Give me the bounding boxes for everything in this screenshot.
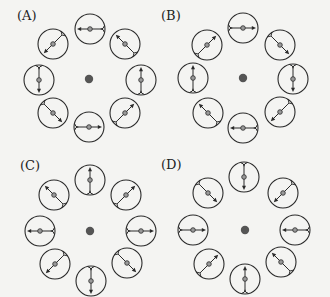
cell-a-2 <box>126 65 156 95</box>
cell-d-4 <box>230 264 260 294</box>
panel-d <box>178 162 310 294</box>
fork-icon <box>287 99 292 104</box>
fork-icon <box>289 64 296 68</box>
cell-c-0 <box>75 165 105 195</box>
cell-center-marker <box>139 229 144 234</box>
cell-center-marker <box>206 191 211 196</box>
fork-icon <box>87 266 94 270</box>
cell-d-6 <box>178 215 208 245</box>
cell-center-marker <box>89 279 94 284</box>
cell-center-marker <box>191 228 196 233</box>
arrowhead-icon <box>230 126 234 130</box>
panel-b <box>178 13 308 143</box>
arrowhead-icon <box>98 125 102 129</box>
fork-icon <box>240 162 247 166</box>
cell-b-7 <box>192 30 222 60</box>
fork-icon <box>194 52 199 57</box>
fork-icon <box>74 123 78 130</box>
cell-d-7 <box>193 178 223 208</box>
arrowhead-icon <box>243 266 247 270</box>
fork-icon <box>112 120 117 125</box>
arrowhead-icon <box>27 229 31 233</box>
cell-center-marker <box>279 260 284 265</box>
cell-center-marker <box>207 262 212 267</box>
fork-icon <box>35 65 42 69</box>
cell-c-6 <box>25 216 55 246</box>
fork-icon <box>290 180 295 185</box>
fork-icon <box>114 250 119 255</box>
cell-center-marker <box>123 111 128 116</box>
cell-d-0 <box>229 162 259 192</box>
cell-d-2 <box>280 215 310 245</box>
center-dot <box>85 75 93 83</box>
cell-b-3 <box>265 97 295 127</box>
arrowhead-icon <box>191 65 195 69</box>
fork-icon <box>178 226 182 233</box>
arrowhead-icon <box>139 67 143 71</box>
cell-c-5 <box>40 249 70 279</box>
cell-center-marker <box>242 175 247 180</box>
cell-center-marker <box>206 111 211 116</box>
cell-b-2 <box>278 64 308 94</box>
arrowhead-icon <box>252 26 256 30</box>
fork-icon <box>306 226 310 233</box>
panel-a <box>24 14 156 142</box>
cell-center-marker <box>293 228 298 233</box>
cell-center-marker <box>291 77 296 82</box>
fork-icon <box>60 31 65 36</box>
cell-center-marker <box>278 110 283 115</box>
fork-icon <box>137 91 144 95</box>
cell-c-7 <box>39 180 69 210</box>
cell-d-5 <box>194 249 224 279</box>
cell-center-marker <box>191 76 196 81</box>
cell-center-marker <box>241 126 246 131</box>
cell-c-4 <box>76 266 106 296</box>
arrowhead-icon <box>77 27 81 31</box>
cell-a-5 <box>38 98 68 128</box>
cell-b-5 <box>193 98 223 128</box>
fork-icon <box>196 271 201 276</box>
fork-icon <box>267 32 272 37</box>
cell-center-marker <box>139 78 144 83</box>
fork-icon <box>288 269 293 274</box>
cell-c-3 <box>112 248 142 278</box>
cell-center-marker <box>123 42 128 47</box>
cell-center-marker <box>88 178 93 183</box>
panel-c <box>25 165 156 296</box>
arrowhead-icon <box>37 89 41 93</box>
cell-center-marker <box>88 27 93 32</box>
center-dot <box>86 227 94 235</box>
fork-icon <box>126 227 130 234</box>
cell-center-marker <box>124 193 129 198</box>
fork-icon <box>241 290 248 294</box>
cell-c-1 <box>111 180 141 210</box>
cell-center-marker <box>205 43 210 48</box>
fork-icon <box>215 120 220 125</box>
cell-d-3 <box>266 247 296 277</box>
figure-canvas: (A) (B) (C) (D) <box>0 0 330 297</box>
cell-a-0 <box>75 14 105 44</box>
fork-icon <box>51 227 55 234</box>
fork-icon <box>40 100 45 105</box>
cell-center-marker <box>87 125 92 130</box>
arrowhead-icon <box>282 228 286 232</box>
cell-a-3 <box>110 98 140 128</box>
arrowhead-icon <box>88 167 92 171</box>
center-dot <box>239 74 247 82</box>
fork-icon <box>189 89 196 93</box>
center-dot <box>241 226 249 234</box>
cell-center-marker <box>241 26 246 31</box>
cell-center-marker <box>125 261 130 266</box>
cell-center-marker <box>52 193 57 198</box>
fork-icon <box>62 251 67 256</box>
cell-center-marker <box>281 191 286 196</box>
fork-icon <box>101 25 105 32</box>
cell-b-4 <box>228 113 258 143</box>
arrowhead-icon <box>291 88 295 92</box>
fork-icon <box>113 202 118 207</box>
diagram-svg <box>0 0 330 297</box>
cell-center-marker <box>38 229 43 234</box>
cell-c-2 <box>126 216 156 246</box>
fork-icon <box>61 202 66 207</box>
cell-center-marker <box>51 111 56 116</box>
